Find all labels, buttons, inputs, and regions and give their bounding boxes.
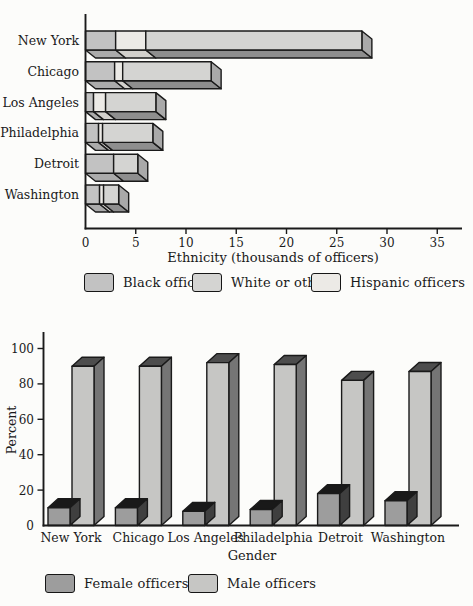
bar-segment-chicago-black-officers	[86, 62, 115, 81]
category-label-washington: Washington	[371, 530, 445, 545]
x-tick-label: 0	[82, 236, 90, 250]
bar-segment-philadelphia-white-or-other	[103, 123, 153, 142]
black-officers-swatch	[84, 273, 114, 292]
female-officers-swatch	[45, 574, 75, 593]
bar-chicago-female-officers	[115, 508, 137, 526]
bar-los-angeles-male-officers	[207, 363, 229, 526]
y-tick-label: 20	[19, 484, 34, 498]
bar-segment-chicago-white-or-other	[123, 62, 211, 81]
bar-segment-washington-black-officers	[86, 185, 100, 204]
gender-chart-svg: New YorkChicagoLos AngelesPhiladelphiaDe…	[0, 300, 473, 606]
y-tick-label: 60	[19, 413, 34, 427]
legend-item-white-or-other: White or other	[192, 273, 330, 292]
category-label-new-york: New York	[18, 33, 80, 48]
y-tick-label: 100	[11, 342, 34, 356]
x-axis-title: Gender	[228, 548, 277, 563]
category-label-los-angeles: Los Angeles	[2, 95, 79, 110]
y-tick-label: 40	[19, 448, 34, 462]
hispanic-officers-swatch	[311, 273, 341, 292]
bar-segment-chicago-hispanic-officers	[115, 62, 123, 81]
bar-detroit-female-officers	[318, 494, 340, 526]
category-label-chicago: Chicago	[113, 530, 165, 545]
bar-segment-los-angeles-black-officers	[86, 93, 94, 112]
bar-side-face-new-york-male	[94, 357, 104, 525]
legend-label: Female officers	[75, 576, 189, 591]
legend-label: Male officers	[218, 576, 316, 591]
category-label-philadelphia: Philadelphia	[234, 530, 313, 545]
bar-side-face-los-angeles-male	[229, 354, 239, 526]
category-label-philadelphia: Philadelphia	[0, 125, 79, 140]
legend-item-hispanic-officers: Hispanic officers	[311, 273, 465, 292]
x-tick-label: 5	[132, 236, 140, 250]
x-tick-label: 35	[430, 236, 445, 250]
category-label-chicago: Chicago	[27, 64, 79, 79]
bar-side-face-washington-male	[431, 363, 441, 526]
bar-segment-new-york-white-or-other	[146, 31, 362, 50]
bar-segment-los-angeles-hispanic-officers	[94, 93, 106, 112]
x-tick-label: 10	[178, 236, 193, 250]
male-officers-swatch	[188, 574, 218, 593]
x-tick-label: 25	[329, 236, 344, 250]
legend-item-male-officers: Male officers	[188, 574, 316, 593]
category-label-los-angeles: Los Angeles	[168, 530, 245, 545]
x-axis-title: Ethnicity (thousands of officers)	[167, 250, 378, 265]
bar-philadelphia-female-officers	[250, 510, 272, 526]
legend-label: Hispanic officers	[341, 275, 465, 290]
bar-side-face-detroit-male	[364, 371, 374, 525]
category-label-detroit: Detroit	[318, 530, 363, 545]
bar-segment-los-angeles-white-or-other	[106, 93, 156, 112]
bar-segment-new-york-hispanic-officers	[116, 31, 146, 50]
bar-segment-detroit-white-or-other	[114, 154, 138, 173]
bar-new-york-female-officers	[48, 508, 70, 526]
bar-bottom-face-chicago	[123, 81, 221, 89]
y-tick-label: 0	[26, 519, 34, 533]
y-tick-label: 80	[19, 377, 34, 391]
bar-washington-female-officers	[385, 501, 407, 526]
bar-segment-washington-white-or-other	[104, 185, 119, 204]
category-label-detroit: Detroit	[34, 156, 79, 171]
bar-los-angeles-female-officers	[183, 511, 205, 525]
bar-side-face-chicago-male	[161, 357, 171, 525]
bar-bottom-face-new-york	[146, 50, 372, 58]
white-or-other-swatch	[192, 273, 222, 292]
ethnicity-chart-svg: New YorkChicagoLos AngelesPhiladelphiaDe…	[0, 0, 473, 300]
x-tick-label: 20	[279, 236, 294, 250]
bar-segment-philadelphia-black-officers	[86, 123, 99, 142]
bar-segment-detroit-black-officers	[86, 154, 114, 173]
scanned-chart-page: New YorkChicagoLos AngelesPhiladelphiaDe…	[0, 0, 473, 606]
y-axis-title: Percent	[4, 406, 19, 455]
bar-segment-new-york-black-officers	[86, 31, 116, 50]
legend-item-female-officers: Female officers	[45, 574, 189, 593]
category-label-new-york: New York	[40, 530, 102, 545]
x-tick-label: 15	[229, 236, 244, 250]
bar-side-face-philadelphia-male	[296, 355, 306, 525]
category-label-washington: Washington	[5, 187, 79, 202]
x-tick-label: 30	[379, 236, 394, 250]
